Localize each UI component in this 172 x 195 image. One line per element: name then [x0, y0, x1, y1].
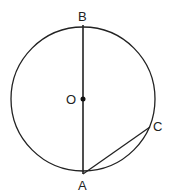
- label-a: A: [78, 178, 87, 193]
- center-point-o: [81, 97, 86, 102]
- geometry-diagram: B O A C: [0, 0, 172, 195]
- chord-ac: [83, 127, 150, 174]
- label-c: C: [153, 119, 162, 134]
- label-o: O: [66, 92, 76, 107]
- label-b: B: [78, 9, 87, 24]
